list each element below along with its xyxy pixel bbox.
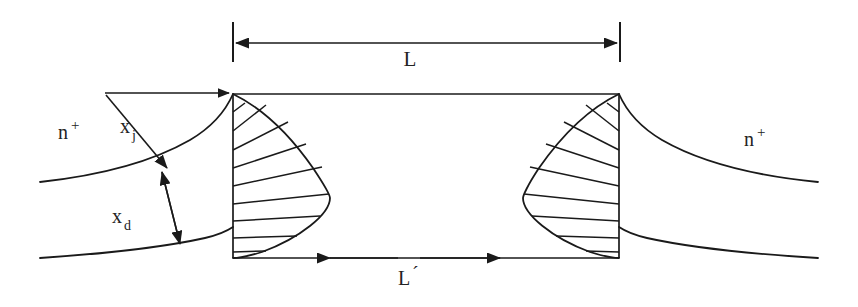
junction-depth-label: x — [120, 115, 130, 137]
junction-depth-subscript: j — [131, 128, 136, 143]
dimension-L-prime-group: L ´ — [233, 258, 619, 289]
hatch-line — [546, 144, 619, 168]
dimension-L-prime-mark: ´ — [412, 263, 419, 285]
depletion-width-measure: x d — [112, 172, 180, 244]
hatch-line — [532, 216, 619, 221]
left-depletion-curve — [40, 227, 233, 258]
junction-diagram-svg: L L ´ — [0, 0, 858, 307]
hatch-line — [530, 167, 619, 186]
hatch-line — [556, 236, 619, 238]
junction-depth-measure: x j — [106, 95, 167, 168]
depletion-width-label: x — [112, 205, 122, 227]
depletion-width-label-group: x d — [112, 205, 131, 233]
hatch-line — [233, 216, 320, 221]
left-junction-curve — [40, 94, 233, 182]
junction-depth-arrow — [106, 95, 167, 168]
dimension-L-prime-label-group: L ´ — [398, 263, 419, 289]
hatch-line — [233, 194, 329, 204]
hatch-line — [233, 167, 322, 186]
dimension-L-label: L — [404, 47, 417, 71]
diagram-canvas: L L ´ — [0, 0, 858, 307]
region-label-right: n + — [744, 124, 765, 150]
hatch-line — [233, 122, 288, 150]
hatch-line — [233, 236, 297, 238]
region-left-label: n — [58, 121, 68, 143]
channel-top-boundary — [105, 93, 619, 94]
hatch-line — [607, 103, 619, 112]
right-junction-curve — [619, 94, 818, 182]
dimension-L-prime-label: L — [398, 267, 410, 289]
hatch-line — [233, 251, 266, 252]
junction-depth-label-group: x j — [120, 115, 136, 143]
region-left-superscript: + — [71, 117, 79, 133]
right-depletion-curve — [619, 227, 818, 258]
hatch-line — [233, 103, 245, 112]
region-right-superscript: + — [757, 124, 765, 140]
hatch-line — [524, 194, 619, 204]
region-right-label: n — [744, 128, 754, 150]
hatch-line — [586, 251, 619, 252]
hatch-line — [564, 122, 619, 150]
region-label-left: n + — [58, 117, 79, 143]
depletion-width-arrow-down — [162, 172, 180, 244]
hatch-line — [233, 144, 306, 168]
dimension-L-group: L — [233, 22, 620, 71]
depletion-width-subscript: d — [124, 218, 131, 233]
left-hatched-region — [233, 94, 330, 258]
right-hatched-region — [523, 94, 619, 258]
